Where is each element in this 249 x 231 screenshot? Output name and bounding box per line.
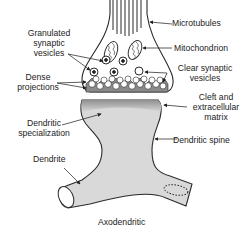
label-mitochondrion: Mitochondrion bbox=[174, 43, 228, 53]
clear-vesicle bbox=[135, 67, 143, 75]
diagram-title: Axodendritic bbox=[98, 217, 145, 227]
label-granulated-vesicles: Granulated synaptic vesicles bbox=[24, 28, 74, 58]
postsynaptic-dendrite bbox=[55, 100, 192, 210]
label-dendrite: Dendrite bbox=[33, 154, 65, 164]
label-cleft: Cleft and extracellular matrix bbox=[186, 92, 246, 122]
label-dendritic-spine: Dendritic spine bbox=[173, 135, 230, 145]
label-microtubules: Microtubules bbox=[172, 18, 221, 28]
label-dense-projections: Dense projections bbox=[16, 72, 60, 92]
label-dendritic-specialization: Dendritic specialization bbox=[16, 118, 72, 138]
label-clear-vesicles: Clear synaptic vesicles bbox=[172, 63, 238, 83]
presynaptic-terminal bbox=[82, 0, 173, 92]
